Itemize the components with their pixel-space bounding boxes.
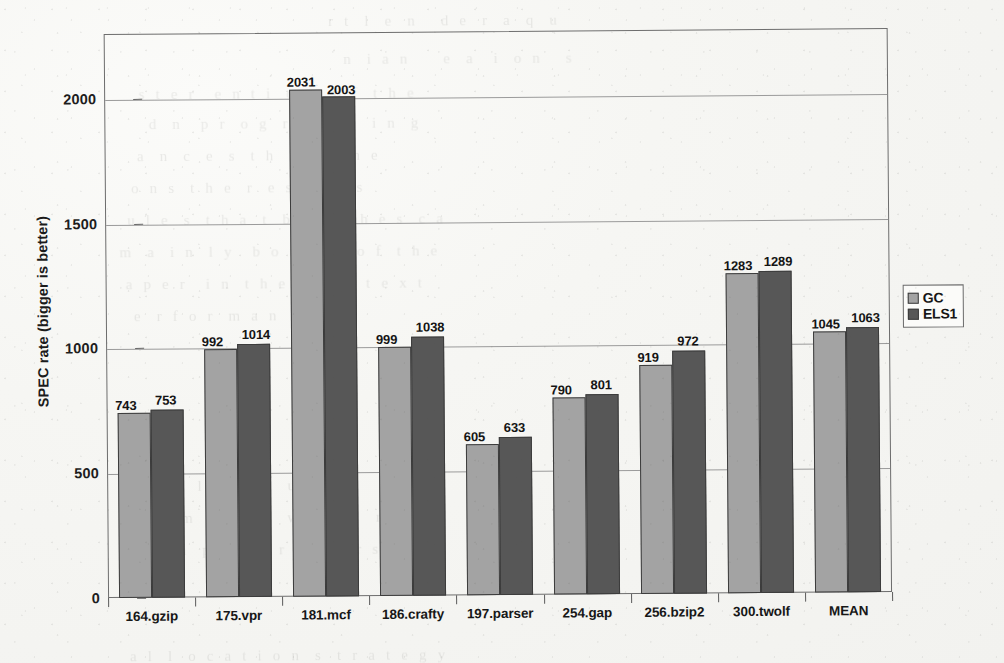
x-axis-tick-mark	[195, 597, 196, 606]
x-axis-tick-mark	[718, 593, 719, 602]
x-axis-tick-label: 181.mcf	[282, 607, 369, 623]
bar-gc-181.mcf[interactable]: 2031	[289, 90, 326, 597]
bar-group: 790801	[539, 30, 631, 595]
x-axis-tick-mark	[457, 595, 458, 604]
bar-els1-175.vpr[interactable]: 1014	[237, 344, 272, 597]
bar-value-label: 790	[551, 383, 572, 396]
bar-value-label: 1038	[416, 320, 445, 333]
bar-els1-MEAN[interactable]: 1063	[846, 327, 881, 593]
spec-rate-bar-chart: SPEC rate (bigger is better) 05001000150…	[0, 0, 1004, 663]
x-axis-tick-label: 175.vpr	[195, 608, 282, 624]
x-axis-tick-label: 256.bzip2	[631, 604, 718, 620]
x-axis-tick-label: 186.crafty	[369, 606, 456, 622]
y-axis-tick-label: 0	[92, 590, 100, 606]
bar-gc-197.parser[interactable]: 605	[466, 444, 500, 595]
bar-value-label: 1014	[242, 328, 271, 341]
bar-els1-164.gzip[interactable]: 753	[150, 410, 184, 598]
bar-group: 10451063	[801, 28, 893, 593]
bar-value-label: 801	[590, 378, 611, 391]
y-axis-tick-label: 1000	[65, 341, 98, 357]
x-axis-tick-mark	[369, 596, 370, 605]
bar-value-label: 972	[677, 335, 698, 348]
x-axis-tick-mark	[805, 593, 806, 602]
x-axis-tick-label: 300.twolf	[718, 604, 805, 620]
bar-group: 9991038	[365, 31, 457, 596]
bar-value-label: 1289	[764, 255, 793, 268]
bar-value-label: 999	[376, 333, 397, 346]
bar-group: 605633	[452, 31, 544, 596]
x-axis-tick-mark	[892, 592, 893, 601]
legend-swatch-icon-els1	[908, 308, 919, 319]
bar-els1-181.mcf[interactable]: 2003	[322, 96, 359, 596]
bar-value-label: 605	[464, 430, 485, 443]
bar-value-label: 743	[115, 398, 136, 411]
bar-gc-175.vpr[interactable]: 992	[204, 350, 239, 598]
bar-gc-MEAN[interactable]: 1045	[813, 332, 848, 593]
x-axis-tick-mark	[544, 595, 545, 604]
bar-value-label: 1063	[851, 311, 880, 324]
y-axis-tick-label: 1500	[64, 216, 97, 232]
bar-group: 12831289	[713, 29, 805, 594]
bar-group: 20312003	[278, 32, 370, 597]
legend-label-els1: ELS1	[923, 306, 957, 320]
bar-value-label: 1045	[811, 318, 840, 331]
bar-value-label: 753	[155, 394, 176, 407]
bar-group: 9921014	[191, 33, 283, 598]
bar-value-label: 2031	[287, 76, 316, 89]
x-axis-tick-label: 254.gap	[544, 605, 631, 621]
legend-swatch-icon-gc	[908, 292, 919, 303]
bar-els1-256.bzip2[interactable]: 972	[672, 351, 707, 594]
x-axis-tick-label: MEAN	[805, 603, 892, 619]
y-axis-ticks: 0500100015002000	[34, 34, 100, 598]
bar-value-label: 1283	[724, 259, 753, 272]
bar-els1-197.parser[interactable]: 633	[499, 437, 533, 595]
bar-els1-254.gap[interactable]: 801	[586, 394, 621, 594]
bar-els1-300.twolf[interactable]: 1289	[759, 271, 795, 593]
chart-legend: GC ELS1	[903, 284, 965, 327]
x-axis-tick-mark	[108, 598, 109, 607]
legend-item-gc: GC	[908, 290, 957, 304]
bar-value-label: 919	[637, 350, 658, 363]
bar-els1-186.crafty[interactable]: 1038	[411, 336, 446, 595]
bar-groups: 7437539921014203120039991038605633790801…	[104, 28, 892, 598]
bar-gc-256.bzip2[interactable]: 919	[639, 364, 674, 594]
y-axis-tick-label: 500	[74, 465, 99, 481]
x-axis-tick-label: 164.gzip	[108, 608, 195, 624]
legend-item-els1: ELS1	[908, 306, 957, 320]
y-axis-tick-label: 2000	[63, 91, 96, 107]
bar-gc-254.gap[interactable]: 790	[553, 397, 588, 594]
bar-group: 919972	[626, 29, 718, 594]
bar-gc-164.gzip[interactable]: 743	[117, 412, 151, 598]
x-axis-tick-mark	[631, 594, 632, 603]
bar-group: 743753	[104, 33, 196, 598]
x-axis-tick-mark	[282, 597, 283, 606]
bar-gc-300.twolf[interactable]: 1283	[726, 273, 762, 593]
bar-value-label: 633	[504, 421, 525, 434]
bar-value-label: 2003	[327, 83, 356, 96]
x-axis-tick-label: 197.parser	[457, 606, 544, 622]
bar-value-label: 992	[202, 336, 223, 349]
legend-label-gc: GC	[923, 291, 944, 305]
bar-gc-186.crafty[interactable]: 999	[378, 346, 413, 596]
